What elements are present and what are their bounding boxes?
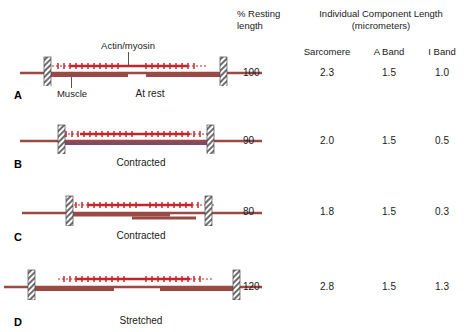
z-line-left-a (44, 57, 51, 86)
sarcomere-value-b: 2.0 (296, 135, 358, 146)
column-header-a-band: A Band (362, 46, 416, 57)
sarcomere-value-c: 1.8 (296, 206, 358, 217)
sarcomere-figure: % Resting length Individual Component Le… (0, 0, 470, 332)
a-band-value-c: 1.5 (362, 206, 416, 217)
myosin-filament-c (70, 202, 214, 208)
i-band-value-a: 1.0 (418, 67, 466, 78)
panel-caption-d: Stretched (96, 315, 186, 326)
percent-value-d: 120 (243, 281, 283, 292)
i-band-value-d: 1.3 (418, 281, 466, 292)
sarcomere-value-d: 2.8 (296, 281, 358, 292)
actin-myosin-callout-label: Actin/myosin (68, 40, 188, 51)
percent-value-b: 90 (243, 135, 283, 146)
z-line-right-b (207, 125, 214, 154)
z-line-right-a (220, 57, 227, 86)
i-band-value-b: 0.5 (418, 135, 466, 146)
myosin-filament-a (52, 63, 208, 69)
myosin-filament-d (58, 276, 212, 282)
panel-letter-b: B (14, 158, 22, 170)
a-band-value-b: 1.5 (362, 135, 416, 146)
a-band-value-a: 1.5 (362, 67, 416, 78)
column-header-sarcomere: Sarcomere (296, 46, 358, 57)
z-line-left-d (28, 270, 35, 300)
muscle-callout-label: Muscle (40, 88, 104, 99)
panel-letter-a: A (14, 89, 22, 101)
column-header-i-band: I Band (418, 46, 466, 57)
sarcomere-value-a: 2.3 (296, 67, 358, 78)
sarcomere-diagram-a (0, 52, 270, 86)
panel-caption-b: Contracted (96, 157, 186, 168)
percent-value-a: 100 (243, 67, 283, 78)
z-line-left-c (66, 196, 73, 226)
myosin-filament-b (60, 131, 212, 137)
component-length-group-header: Individual Component Length (micrometers… (295, 8, 467, 31)
sarcomere-diagram-b (0, 120, 270, 154)
z-line-right-d (233, 270, 240, 300)
z-line-left-b (58, 125, 65, 154)
panel-caption-a: At rest (110, 88, 190, 99)
panel-letter-d: D (14, 316, 22, 328)
a-band-value-d: 1.5 (362, 281, 416, 292)
z-line-right-c (205, 196, 212, 226)
panel-letter-c: C (14, 231, 22, 243)
i-band-value-c: 0.3 (418, 206, 466, 217)
sarcomere-diagram-d (0, 266, 270, 300)
percent-value-c: 80 (243, 206, 283, 217)
panel-caption-c: Contracted (96, 230, 186, 241)
sarcomere-diagram-c (0, 192, 270, 226)
